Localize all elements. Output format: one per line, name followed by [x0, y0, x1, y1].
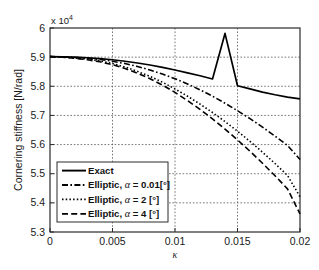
y-tick-label: 5.7 — [30, 109, 45, 121]
figure-background — [0, 0, 319, 270]
cornering-stiffness-line-chart: x 104 5.35.45.55.65.75.85.96 00.0050.010… — [0, 0, 319, 270]
chart-figure: x 104 5.35.45.55.65.75.85.96 00.0050.010… — [0, 0, 319, 270]
y-tick-label: 5.6 — [30, 138, 45, 150]
x-axis-title: κ — [173, 249, 178, 260]
legend-label-1: Elliptic, α = 0.01[°] — [88, 179, 170, 190]
x-tick-label: 0 — [47, 235, 53, 247]
legend-label-2: Elliptic, α = 2 [°] — [88, 194, 159, 205]
y-tick-label: 5.5 — [30, 167, 45, 179]
y-tick-label: 5.3 — [30, 226, 45, 238]
legend-label-3: Elliptic, α = 4 [°] — [88, 208, 159, 219]
y-tick-label: 5.9 — [30, 51, 45, 63]
y-axis-multiplier-exponent: 4 — [69, 14, 73, 21]
x-tick-label: 0.015 — [224, 235, 250, 247]
y-tick-label: 5.4 — [30, 196, 45, 208]
legend-label-0: Exact — [88, 165, 114, 176]
y-tick-label: 5.8 — [30, 80, 45, 92]
chart-legend: ExactElliptic, α = 0.01[°]Elliptic, α = … — [57, 162, 170, 222]
y-axis-title: Cornering stiffness [N/rad] — [12, 69, 24, 191]
x-tick-label: 0.01 — [165, 235, 186, 247]
x-tick-label: 0.005 — [99, 235, 125, 247]
y-axis-multiplier-base: x 10 — [51, 15, 69, 26]
y-tick-label: 6 — [39, 22, 45, 34]
x-tick-label: 0.02 — [290, 235, 311, 247]
